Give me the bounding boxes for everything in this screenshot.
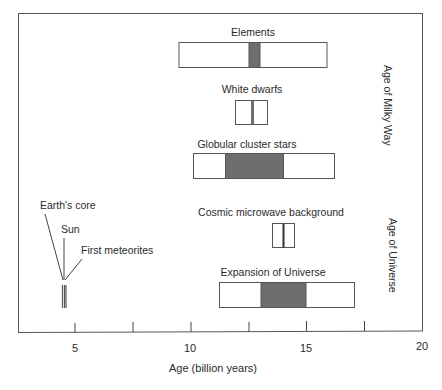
label-first-meteorites: First meteorites (81, 244, 153, 256)
bar-label-white-dwarfs: White dwarfs (222, 83, 283, 95)
x-axis-title: Age (billion years) (169, 362, 257, 374)
x-tick-label-15: 15 (300, 342, 312, 354)
x-tick-label-20: 20 (416, 340, 428, 352)
bar-globular-cluster-stars: Globular cluster stars (194, 138, 335, 179)
solar-system-markers: Earth's core Sun First meteorites (40, 199, 153, 308)
best-estimate-expansion-of-universe (261, 283, 306, 308)
bar-white-dwarfs: White dwarfs (222, 83, 283, 125)
best-estimate-white-dwarfs (251, 101, 254, 125)
best-estimate-cosmic-microwave-background (283, 224, 285, 248)
best-estimate-globular-cluster-stars (226, 154, 284, 179)
bar-label-globular-cluster-stars: Globular cluster stars (197, 138, 296, 150)
age-comparison-chart: 5 10 15 20 Age (billion years) Elements … (0, 0, 442, 390)
x-tick-label-5: 5 (72, 342, 78, 354)
marker-lines (63, 285, 67, 308)
bar-expansion-of-universe: Expansion of Universe (220, 266, 355, 308)
bar-label-elements: Elements (231, 26, 275, 38)
label-sun: Sun (61, 223, 80, 235)
bar-label-cosmic-microwave-background: Cosmic microwave background (198, 206, 344, 218)
bar-label-expansion-of-universe: Expansion of Universe (220, 266, 325, 278)
label-earths-core: Earth's core (40, 199, 96, 211)
group-label-milky-way: Age of Milky Way (382, 65, 394, 146)
bar-cosmic-microwave-background: Cosmic microwave background (198, 206, 344, 248)
best-estimate-elements (249, 43, 260, 68)
group-label-universe: Age of Universe (387, 218, 399, 293)
x-tick-label-10: 10 (184, 342, 196, 354)
bar-elements: Elements (179, 26, 327, 68)
x-axis-line (18, 331, 423, 333)
